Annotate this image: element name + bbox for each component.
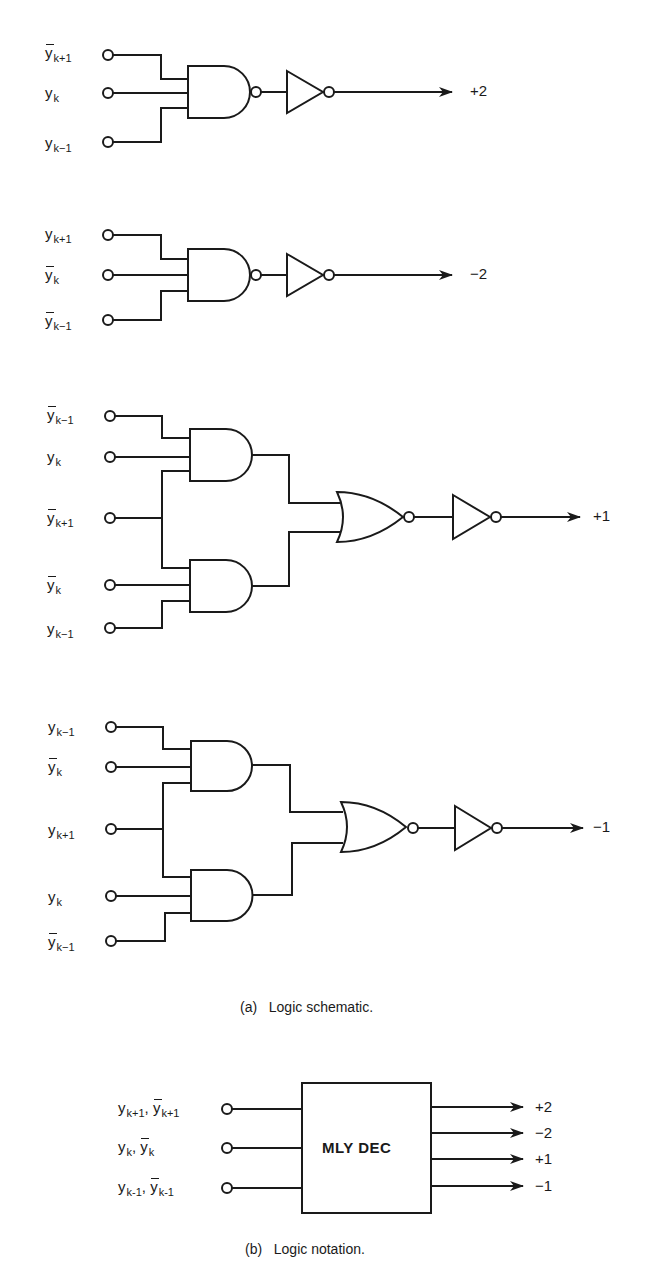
input-terminal [222, 1104, 232, 1114]
inversion-bubble [492, 823, 502, 833]
circuit-plus1 [105, 411, 580, 633]
inverter-gate [287, 71, 323, 113]
output-label: +2 [470, 82, 487, 100]
input-terminal [106, 762, 116, 772]
inversion-bubble [491, 512, 501, 522]
input-terminal [106, 824, 116, 834]
input-label: yk−1 [45, 312, 72, 335]
nor-gate [341, 802, 406, 852]
input-label: yk−1 [48, 718, 75, 741]
input-label: yk [45, 266, 59, 289]
notation-output-label: −1 [535, 1177, 552, 1195]
input-label: yk [48, 888, 62, 911]
circuit-plus2 [103, 50, 452, 147]
mly-dec-label: MLY DEC [322, 1139, 391, 1156]
input-label: yk−1 [45, 134, 72, 157]
notation-output-label: +2 [535, 1098, 552, 1116]
inversion-bubble [251, 270, 261, 280]
notation-input-label: yk-1, yk-1 [118, 1178, 174, 1201]
input-terminal [106, 936, 116, 946]
input-terminal [105, 513, 115, 523]
input-terminal [103, 315, 113, 325]
inversion-bubble [251, 87, 261, 97]
output-label: −2 [470, 265, 487, 283]
caption-logic-schematic: (a) Logic schematic. [240, 999, 373, 1015]
input-terminal [105, 452, 115, 462]
input-terminal [103, 137, 113, 147]
caption-logic-notation: (b) Logic notation. [245, 1241, 365, 1257]
input-label: yk [47, 576, 61, 599]
input-terminal [103, 270, 113, 280]
output-label: +1 [593, 507, 610, 525]
circuit-minus2 [103, 230, 452, 325]
input-label: yk−1 [48, 933, 75, 956]
output-label: −1 [593, 818, 610, 836]
input-terminal [106, 722, 116, 732]
and-gate-upper [191, 741, 252, 791]
input-label: yk−1 [47, 620, 74, 643]
nor-gate [337, 492, 403, 542]
and-gate-upper [190, 429, 252, 481]
input-label: yk [47, 448, 61, 471]
input-label: yk [45, 84, 59, 107]
notation-input-label: yk+1, yk+1 [118, 1099, 179, 1122]
input-label: yk [48, 758, 62, 781]
and-gate-lower [191, 870, 253, 921]
input-terminal [103, 50, 113, 60]
inverter-gate [453, 495, 490, 539]
inversion-bubble [324, 87, 334, 97]
nand-gate [188, 66, 250, 118]
inverter-gate [455, 806, 491, 850]
input-terminal [105, 623, 115, 633]
input-terminal [222, 1183, 232, 1193]
inverter-gate [287, 254, 323, 296]
input-terminal [105, 411, 115, 421]
inversion-bubble [404, 512, 414, 522]
input-terminal [106, 891, 116, 901]
nand-gate [188, 249, 250, 301]
input-label: yk+1 [45, 44, 72, 67]
inversion-bubble [324, 270, 334, 280]
input-terminal [222, 1143, 232, 1153]
notation-input-label: yk, yk [118, 1138, 154, 1161]
and-gate-lower [190, 560, 252, 612]
logic-diagram [0, 0, 648, 1282]
input-terminal [105, 580, 115, 590]
notation-output-label: +1 [535, 1150, 552, 1168]
notation-output-label: −2 [535, 1124, 552, 1142]
circuit-minus1 [106, 722, 583, 946]
input-label: yk+1 [47, 509, 74, 532]
input-label: yk+1 [48, 821, 75, 844]
input-terminal [103, 88, 113, 98]
input-label: yk+1 [45, 225, 72, 248]
input-terminal [103, 230, 113, 240]
input-label: yk−1 [47, 406, 74, 429]
inversion-bubble [408, 823, 418, 833]
